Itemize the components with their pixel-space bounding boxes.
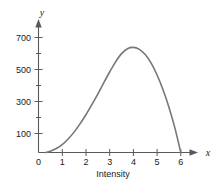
x-tick-label-4: 4	[131, 157, 136, 167]
x-axis-tick-labels: 0 1 2 3 4 5 6	[36, 157, 183, 167]
x-tick-label-0: 0	[36, 157, 41, 167]
y-tick-label-700: 700	[16, 33, 31, 43]
x-axis-variable-label: x	[205, 147, 211, 158]
y-axis-variable-label: y	[39, 7, 45, 18]
y-tick-label-500: 500	[16, 65, 31, 75]
x-tick-label-6: 6	[178, 157, 183, 167]
y-tick-label-300: 300	[16, 97, 31, 107]
chart-plot-area: 100 300 500 700 0 1 2 3 4 5 6 y x Intens…	[0, 0, 219, 183]
y-tick-label-100: 100	[16, 129, 31, 139]
x-tick-label-5: 5	[155, 157, 160, 167]
x-tick-label-1: 1	[60, 157, 65, 167]
x-tick-label-2: 2	[83, 157, 88, 167]
x-axis-title: Intensity	[96, 169, 130, 179]
y-axis-tick-labels: 100 300 500 700	[16, 33, 31, 139]
x-axis-arrow-icon	[190, 149, 199, 155]
y-axis-arrow-icon	[35, 19, 41, 28]
chart-figure: 100 300 500 700 0 1 2 3 4 5 6 y x Intens…	[0, 0, 219, 183]
intensity-curve-line	[46, 47, 181, 152]
x-tick-label-3: 3	[107, 157, 112, 167]
